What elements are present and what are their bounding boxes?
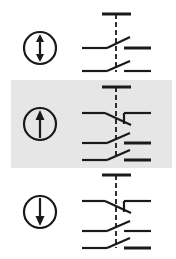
- contact-symbol-row-3: [82, 175, 151, 248]
- contact-symbol-row-1: [82, 14, 151, 72]
- down-arrow-icon: [24, 196, 56, 228]
- highlight-band: [11, 80, 172, 168]
- up-down-arrow-icon: [24, 32, 56, 64]
- row-3: [24, 175, 151, 248]
- switch-diagram: .s { stroke: #1a1a1a; stroke-width: 2.2;…: [0, 0, 176, 259]
- row-1: [24, 14, 151, 72]
